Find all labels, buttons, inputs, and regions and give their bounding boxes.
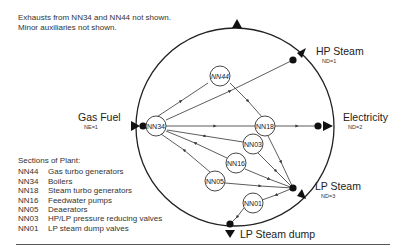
legend-item: NN18Steam turbo generators — [18, 186, 162, 195]
edge-nn34-hpsteam — [166, 60, 293, 120]
lp-steam-terminal — [289, 184, 296, 191]
hp-steam-sub: ND=1 — [322, 58, 336, 64]
node-label-nn34: NN34 — [147, 123, 165, 130]
gas-fuel-terminal — [139, 122, 146, 129]
legend-title: Sections of Plant: — [18, 156, 162, 165]
gas-fuel-sub: NE=1 — [84, 124, 98, 130]
lp-steam-dump-label: LP Steam dump — [240, 228, 315, 240]
edge-lpsteam-nn01 — [262, 188, 293, 200]
legend-item: NN34Boilers — [18, 177, 162, 186]
edges — [143, 60, 318, 224]
hp-steam-label: HP Steam — [316, 45, 364, 57]
legend-item: NN16Feedwater pumps — [18, 196, 162, 205]
lp-dump-arrow-icon — [225, 230, 235, 238]
lp-steam-arrow-icon — [297, 189, 306, 199]
electricity-terminal — [314, 122, 321, 129]
legend-item: NN44Gas turbo generators — [18, 167, 162, 176]
node-label-nn01: NN01 — [244, 200, 262, 207]
node-label-nn05: NN05 — [206, 178, 224, 185]
node-label-nn44: NN44 — [211, 73, 229, 80]
node-label-nn18: NN18 — [256, 123, 274, 130]
electricity-sub: ND=2 — [348, 124, 362, 130]
edge-nn44-nn18 — [230, 83, 262, 117]
edge-nn03-lpsteam — [258, 153, 293, 188]
gas-fuel-label: Gas Fuel — [78, 111, 121, 123]
lp-steam-sub: ND=3 — [321, 193, 335, 199]
hp-steam-terminal — [289, 56, 296, 63]
legend-item: NN01LP steam dump valves — [18, 224, 162, 233]
bottom-divider — [16, 244, 390, 245]
node-label-nn16: NN16 — [227, 160, 245, 167]
node-label-nn03: NN03 — [244, 141, 262, 148]
legend-item: NN03HP/LP pressure reducing valves — [18, 214, 162, 223]
legend-item: NN05Deaerators — [18, 205, 162, 214]
electricity-arrow-icon — [323, 121, 333, 131]
plant-sections-legend: Sections of Plant: NN44Gas turbo generat… — [18, 156, 162, 233]
electricity-label: Electricity — [343, 111, 388, 123]
lp-dump-terminal — [226, 220, 233, 227]
lp-steam-label: LP Steam — [315, 180, 361, 192]
top-boundary-arrow-icon — [232, 19, 242, 28]
edge-nn05-nn34 — [161, 134, 210, 172]
